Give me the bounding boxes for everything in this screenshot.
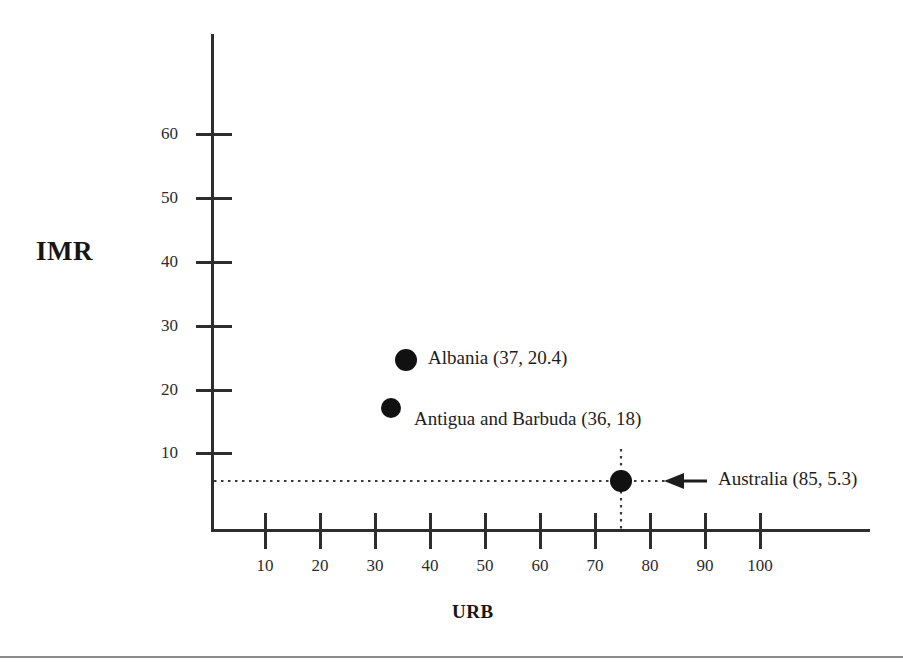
y-tick-label-40: 40 [134, 252, 178, 272]
australia-arrow-annotation [664, 473, 707, 489]
chart-page: IMR URB 60 50 40 30 20 10 10 20 30 40 50… [0, 0, 903, 672]
x-tick-label-80: 80 [628, 556, 672, 576]
x-tick-label-60: 60 [518, 556, 562, 576]
x-tick-label-20: 20 [298, 556, 342, 576]
x-tick-label-90: 90 [683, 556, 727, 576]
y-axis-title: IMR [36, 236, 93, 267]
data-point-antigua-and-barbuda[interactable] [381, 398, 401, 418]
x-tick-label-50: 50 [463, 556, 507, 576]
y-tick-label-60: 60 [134, 124, 178, 144]
australia-guide-lines [214, 449, 680, 529]
x-tick-label-100: 100 [738, 556, 782, 576]
bottom-divider [0, 656, 903, 658]
data-point-albania[interactable] [395, 349, 417, 371]
x-tick-label-10: 10 [243, 556, 287, 576]
y-tick-label-30: 30 [134, 316, 178, 336]
x-tick-label-30: 30 [353, 556, 397, 576]
point-label-albania: Albania (37, 20.4) [428, 347, 567, 369]
data-point-australia[interactable] [610, 470, 632, 492]
y-tick-label-10: 10 [134, 443, 178, 463]
y-tick-label-50: 50 [134, 188, 178, 208]
point-label-antigua-and-barbuda: Antigua and Barbuda (36, 18) [414, 408, 641, 430]
point-label-australia: Australia (85, 5.3) [718, 468, 857, 490]
x-axis-title: URB [452, 601, 494, 623]
x-tick-label-40: 40 [408, 556, 452, 576]
y-tick-label-20: 20 [134, 380, 178, 400]
x-tick-label-70: 70 [573, 556, 617, 576]
